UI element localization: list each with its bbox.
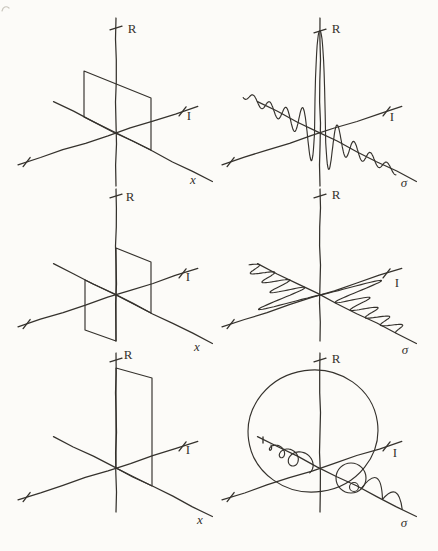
i-axis [18,441,198,499]
r-axis [320,189,321,341]
depth-axis [258,264,417,344]
spiral-corkscrew [269,445,313,473]
i-axis-label: I [186,269,190,284]
i-axis [18,106,198,164]
i-axis-label: I [393,445,397,460]
depth-axis-label: σ [402,342,409,357]
depth-axis-label: σ [401,175,408,190]
odd-rectangle-signal-panel: RIx [18,189,212,354]
i-axis-label: I [187,108,191,123]
depth-axis-label: x [193,339,200,354]
i-axis-label: I [395,275,399,290]
i-axis-tick-negative [23,158,30,167]
r-axis-label: R [126,189,135,204]
r-axis-label: R [128,21,137,36]
i-axis-tick-negative [227,320,234,329]
i-axis-label: I [186,442,190,457]
figure-page: RIxRIσRIxRIσRIxRIσ [0,0,438,551]
r-axis-label: R [332,187,341,202]
spiral-transform-panel: RIσ [222,351,416,530]
signal-curve [84,71,151,150]
spiral-small-loop [350,483,359,492]
signal-curve [116,368,152,486]
scan-artifact [2,7,9,11]
r-axis-label: R [332,351,341,366]
sinc-transform-panel: RIσ [222,18,416,190]
depth-axis-label: σ [401,515,408,530]
fourier-transform-pairs-figure: RIxRIσRIxRIσRIxRIσ [0,0,438,551]
depth-axis-label: x [196,512,203,527]
even-rectangle-signal-panel: RIx [18,18,212,187]
step-rectangle-signal-panel: RIx [18,347,212,527]
spiral-main-loop [240,362,386,501]
i-axis [18,268,198,326]
spiral-ripples [361,478,402,510]
signal-curve [85,280,116,341]
r-axis-label: R [332,21,341,36]
r-axis-label: R [124,347,133,362]
i-axis [222,268,402,326]
i-axis [222,106,402,164]
r-axis [320,18,321,186]
depth-axis-label: x [189,172,196,187]
r-axis [320,353,321,512]
i-axis-label: I [390,109,394,124]
odd-imaginary-transform-panel: RIσ [222,187,416,357]
r-axis [116,18,117,186]
